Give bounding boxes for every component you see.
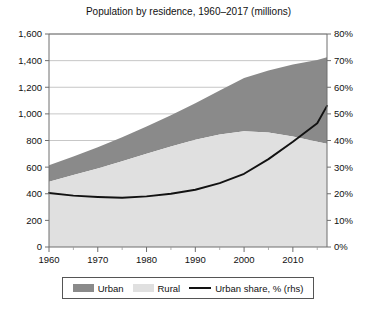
y-tick-label: 400 xyxy=(26,188,42,199)
y-tick-label: 1,200 xyxy=(18,82,42,93)
x-tick-label: 1990 xyxy=(185,254,206,265)
legend-label-urban-share: Urban share, % (rhs) xyxy=(215,283,303,294)
y2-tick-label: 70% xyxy=(334,55,354,66)
y-tick-label: 1,600 xyxy=(18,28,42,39)
chart-svg: 02004006008001,0001,2001,4001,6000%10%20… xyxy=(0,0,377,313)
x-tick-label: 1960 xyxy=(38,254,59,265)
legend-swatch-urban xyxy=(73,284,94,292)
y2-tick-label: 50% xyxy=(334,108,354,119)
legend-label-urban: Urban xyxy=(98,283,124,294)
x-tick-label: 2010 xyxy=(282,254,303,265)
legend-item-rural: Rural xyxy=(133,283,181,294)
y-tick-label: 200 xyxy=(26,215,42,226)
chart-container: Population by residence, 1960–2017 (mill… xyxy=(0,0,377,313)
y-tick-label: 600 xyxy=(26,162,42,173)
x-tick-label: 1970 xyxy=(87,254,108,265)
x-tick-label: 1980 xyxy=(136,254,157,265)
y2-tick-label: 40% xyxy=(334,135,354,146)
legend-item-urban: Urban xyxy=(73,283,124,294)
area-rural xyxy=(49,131,327,247)
y-tick-label: 1,400 xyxy=(18,55,42,66)
y2-tick-label: 10% xyxy=(334,215,354,226)
x-tick-label: 2000 xyxy=(234,254,255,265)
y2-tick-label: 60% xyxy=(334,82,354,93)
legend-item-urban-share: Urban share, % (rhs) xyxy=(189,283,303,294)
legend-label-rural: Rural xyxy=(158,283,181,294)
y2-tick-label: 0% xyxy=(334,241,348,252)
y-tick-label: 1,000 xyxy=(18,108,42,119)
legend-line-urban-share xyxy=(189,287,211,289)
y2-tick-label: 30% xyxy=(334,162,354,173)
y-tick-label: 800 xyxy=(26,135,42,146)
y2-tick-label: 80% xyxy=(334,28,354,39)
area-series xyxy=(49,57,327,247)
chart-legend: Urban Rural Urban share, % (rhs) xyxy=(62,277,314,299)
y-tick-label: 0 xyxy=(37,241,42,252)
y2-tick-label: 20% xyxy=(334,188,354,199)
legend-swatch-rural xyxy=(133,284,154,292)
